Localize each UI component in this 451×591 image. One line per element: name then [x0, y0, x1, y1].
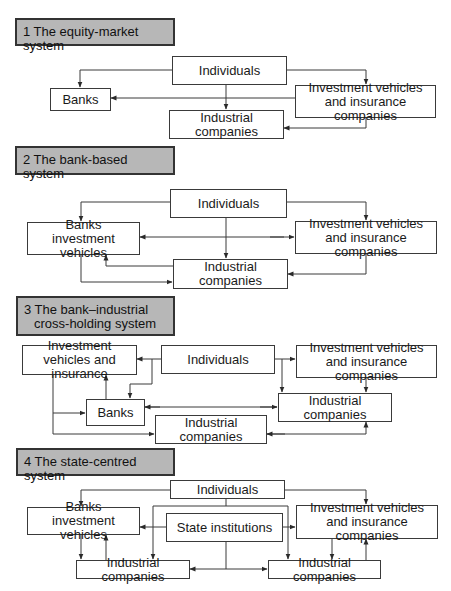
node-industrial-companies: Industrial companies [169, 110, 284, 139]
node-industrial-companies-left: Industrial companies [76, 560, 190, 579]
node-investment-vehicles: Investment vehicles and insurance compan… [295, 85, 436, 118]
node-banks: Banks [86, 399, 145, 426]
section-3-title-line1: 3 The bank–industrial [24, 302, 148, 317]
node-banks-investment-vehicles: Banks investment vehicles [27, 507, 140, 535]
node-banks-investment-vehicles: Banks investment vehicles [27, 222, 140, 255]
node-investment-vehicles: Investment vehicles and insurance compan… [295, 221, 437, 254]
node-investment-vehicles: Investment vehicles and insurance compan… [296, 505, 438, 539]
node-industrial-companies-bottom: Industrial companies [155, 415, 267, 444]
section-3-title-line2: cross-holding system [24, 317, 167, 331]
node-industrial-companies-right: Industrial companies [278, 393, 392, 422]
node-industrial-companies-right: Industrial companies [268, 560, 381, 579]
node-individuals: Individuals [161, 345, 275, 374]
section-2-title: 2 The bank-based system [15, 146, 175, 175]
node-investment-vehicles-insurance: Investment vehicles and insurance [22, 345, 137, 375]
node-individuals: Individuals [170, 189, 287, 218]
section-1-title: 1 The equity-market system [15, 18, 175, 46]
section-3-title: 3 The bank–industrial cross-holding syst… [16, 296, 175, 336]
node-industrial-companies: Industrial companies [173, 259, 288, 289]
node-individuals: Individuals [172, 56, 287, 85]
section-4-title: 4 The state-centred system [16, 448, 175, 476]
node-state-institutions: State institutions [166, 513, 283, 542]
node-banks: Banks [50, 88, 111, 111]
node-individuals: Individuals [170, 480, 285, 499]
node-investment-vehicles: Investment vehicles and insurance compan… [296, 345, 437, 378]
